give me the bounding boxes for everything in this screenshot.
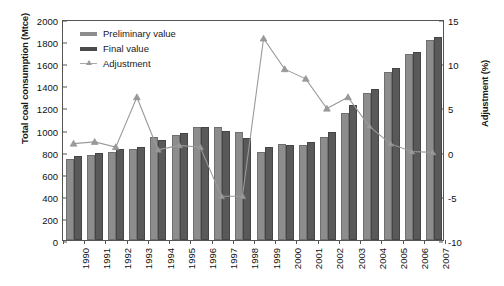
legend: Preliminary value Final value Adjustment [80, 26, 176, 71]
adjustment-marker [302, 75, 309, 81]
y-axis-right-title: Adjustment (%) [479, 14, 490, 174]
x-axis-tick-mark [212, 240, 213, 244]
x-axis-tick-label: 1995 [186, 248, 197, 286]
x-axis-tick-mark [275, 240, 276, 244]
x-axis-tick-mark [339, 240, 340, 244]
x-axis-tick-label: 2000 [292, 248, 303, 286]
y-axis-right-tick-label: -5 [443, 192, 456, 203]
x-axis-tick-mark [424, 240, 425, 244]
x-axis-tick-label: 1994 [165, 248, 176, 286]
y-axis-tick-label: 1400 [37, 82, 63, 93]
x-axis-tick-mark [403, 240, 404, 244]
legend-item-final: Final value [80, 41, 176, 56]
y-axis-right-tick-mark [439, 242, 443, 243]
y-axis-tick-label: 400 [42, 192, 63, 203]
x-axis-tick-label: 2002 [334, 248, 345, 286]
x-axis-tick-mark [84, 240, 85, 244]
x-axis-tick-label: 1992 [122, 248, 133, 286]
x-axis-tick-mark [127, 240, 128, 244]
x-axis-tick-label: 2001 [313, 248, 324, 286]
x-axis-tick-mark [445, 240, 446, 244]
y-axis-tick-label: 1600 [37, 60, 63, 71]
legend-swatch-icon [80, 32, 97, 36]
y-axis-left-title: Total coal consumption (Mtce) [19, 0, 30, 159]
x-axis-tick-mark [63, 240, 64, 244]
x-axis-tick-mark [360, 240, 361, 244]
adjustment-marker [91, 139, 98, 145]
y-axis-tick-label: 1200 [37, 104, 63, 115]
x-axis-tick-label: 2003 [356, 248, 367, 286]
x-axis-tick-mark [296, 240, 297, 244]
legend-swatch-icon [80, 47, 97, 51]
x-axis-tick-mark [169, 240, 170, 244]
x-axis-tick-mark [105, 240, 106, 244]
x-axis-tick-label: 1997 [228, 248, 239, 286]
x-axis-tick-mark [318, 240, 319, 244]
x-axis-tick-label: 2004 [377, 248, 388, 286]
x-axis-tick-label: 2007 [440, 248, 451, 286]
x-axis-tick-label: 2006 [419, 248, 430, 286]
x-axis-tick-mark [148, 240, 149, 244]
x-axis-tick-mark [254, 240, 255, 244]
adjustment-marker [134, 94, 141, 100]
x-axis-tick-label: 1999 [271, 248, 282, 286]
x-axis-tick-label: 1996 [207, 248, 218, 286]
legend-label: Adjustment [103, 56, 151, 71]
y-axis-tick-label: 2000 [37, 16, 63, 27]
legend-item-adjustment: Adjustment [80, 56, 176, 71]
legend-line-marker-icon [80, 59, 97, 68]
legend-label: Preliminary value [103, 26, 176, 41]
adjustment-marker [260, 35, 267, 41]
y-axis-tick-label: 1800 [37, 38, 63, 49]
x-axis-tick-label: 1991 [101, 248, 112, 286]
x-axis-tick-label: 1990 [80, 248, 91, 286]
y-axis-tick-label: 0 [53, 237, 63, 248]
y-axis-tick-label: 200 [42, 214, 63, 225]
x-axis-tick-label: 2005 [398, 248, 409, 286]
y-axis-tick-label: 800 [42, 148, 63, 159]
x-axis-tick-label: 1993 [143, 248, 154, 286]
x-axis-tick-mark [381, 240, 382, 244]
y-axis-right-tick-label: 15 [443, 16, 459, 27]
x-axis-tick-mark [233, 240, 234, 244]
coal-consumption-chart: Total coal consumption (Mtce) Adjustment… [0, 0, 504, 286]
y-axis-tick-label: 600 [42, 170, 63, 181]
x-axis-tick-mark [190, 240, 191, 244]
legend-label: Final value [103, 41, 149, 56]
y-axis-right-tick-label: 10 [443, 60, 459, 71]
y-axis-tick-label: 1000 [37, 126, 63, 137]
x-axis-tick-label: 1998 [249, 248, 260, 286]
adjustment-marker [176, 142, 183, 148]
legend-item-preliminary: Preliminary value [80, 26, 176, 41]
adjustment-marker [345, 94, 352, 100]
